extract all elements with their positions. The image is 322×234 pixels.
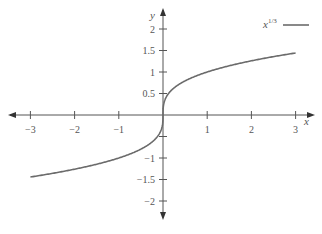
y-tick-label: 2 [150, 24, 155, 35]
x-tick-label: −3 [25, 124, 36, 135]
y-axis-down-arrow-icon [160, 212, 166, 220]
y-tick-label: 1.5 [143, 45, 156, 56]
x-tick-label: 1 [205, 124, 210, 135]
legend-label-exponent: 1/3 [268, 17, 277, 25]
legend: x1/3 [262, 17, 309, 30]
plot-area: −3−2−1123−2−1.5−10.511.52 x1/3 x y [0, 0, 322, 234]
x-tick-label: −2 [69, 124, 80, 135]
y-tick-label: 1 [150, 67, 155, 78]
x-tick-label: 2 [249, 124, 254, 135]
x-axis-left-arrow-icon [8, 112, 16, 118]
x-tick-label: −1 [113, 124, 124, 135]
y-axis-up-arrow-icon [160, 8, 166, 16]
axes [8, 8, 315, 220]
legend-label: x1/3 [262, 17, 277, 30]
y-tick-label: −1 [144, 153, 155, 164]
y-tick-label: −2 [144, 196, 155, 207]
y-axis-label: y [149, 9, 155, 21]
y-tick-label: −1.5 [137, 174, 155, 185]
x-tick-label: 3 [293, 124, 298, 135]
x-axis-label: x [303, 115, 309, 127]
cube-root-chart: −3−2−1123−2−1.5−10.511.52 x1/3 x y [0, 0, 322, 234]
y-tick-label: 0.5 [143, 88, 156, 99]
